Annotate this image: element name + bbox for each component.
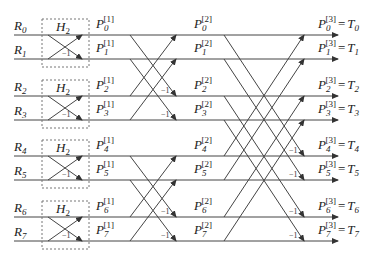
stage2-output-label-0: P0[2] (194, 15, 212, 33)
input-label-6: R6 (14, 201, 26, 217)
minus-one-label: −1 (62, 49, 71, 58)
final-output-label-6: P6[3]=T6 (318, 197, 359, 215)
minus-one-label: −1 (62, 170, 71, 179)
final-output-label-7: P7[3]=T7 (318, 221, 359, 239)
final-output-label-0: P0[3]=T0 (318, 15, 359, 33)
input-label-7: R7 (14, 225, 26, 241)
minus-one-label: −1 (161, 207, 170, 216)
final-output-label-2: P2[3]=T2 (318, 76, 359, 94)
stage1-output-label-5: P5[1] (96, 160, 114, 178)
final-output-label-3: P3[3]=T3 (318, 100, 359, 118)
final-output-label-5: P5[3]=T5 (318, 160, 359, 178)
minus-one-label: −1 (62, 110, 71, 119)
butterfly-network (0, 0, 372, 257)
minus-one-label: −1 (289, 170, 298, 179)
stage1-output-label-7: P7[1] (96, 221, 114, 239)
minus-one-label: −1 (62, 231, 71, 240)
final-output-label-1: P1[3]=T1 (318, 39, 359, 57)
minus-one-label: −1 (161, 86, 170, 95)
h2-block-label: H2 (56, 19, 70, 36)
stage2-output-label-5: P5[2] (194, 160, 212, 178)
stage2-output-label-4: P4[2] (194, 136, 212, 154)
stage1-output-label-2: P2[1] (96, 76, 114, 94)
stage2-output-label-3: P3[2] (194, 100, 212, 118)
stage1-output-label-6: P6[1] (96, 197, 114, 215)
minus-one-label: −1 (289, 146, 298, 155)
stage1-output-label-3: P3[1] (96, 100, 114, 118)
input-label-4: R4 (14, 140, 26, 156)
final-output-label-4: P4[3]=T4 (318, 136, 359, 154)
h2-block-label: H2 (56, 140, 70, 157)
stage1-output-label-4: P4[1] (96, 136, 114, 154)
input-label-3: R3 (14, 104, 26, 120)
h2-block-label: H2 (56, 80, 70, 97)
minus-one-label: −1 (161, 231, 170, 240)
stage2-output-label-6: P6[2] (194, 197, 212, 215)
butterfly-diagram: R0P0[1]P0[2]P0[3]=T0R1P1[1]P1[2]P1[3]=T1… (0, 0, 372, 257)
stage1-output-label-1: P1[1] (96, 39, 114, 57)
h2-block-label: H2 (56, 201, 70, 218)
input-label-5: R5 (14, 164, 26, 180)
stage2-output-label-1: P1[2] (194, 39, 212, 57)
stage2-output-label-7: P7[2] (194, 221, 212, 239)
input-label-0: R0 (14, 19, 26, 35)
stage2-output-label-2: P2[2] (194, 76, 212, 94)
minus-one-label: −1 (161, 110, 170, 119)
stage1-output-label-0: P0[1] (96, 15, 114, 33)
minus-one-label: −1 (289, 207, 298, 216)
minus-one-label: −1 (289, 231, 298, 240)
input-label-2: R2 (14, 80, 26, 96)
input-label-1: R1 (14, 43, 26, 59)
